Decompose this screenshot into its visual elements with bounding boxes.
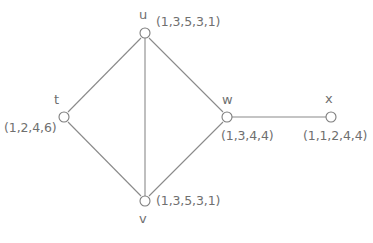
node-label-v: v [139,212,147,225]
node-tuple-w: (1,3,4,4) [221,130,274,143]
node-tuple-x: (1,1,2,4,4) [303,130,367,143]
node-circle-v[interactable] [140,196,150,206]
node-tuple-v: (1,3,5,3,1) [156,195,220,208]
edge-t-v [68,122,141,196]
edge-t-u [68,38,141,112]
node-label-t: t [54,93,59,106]
node-label-w: w [222,93,233,106]
graph-diagram: t u v w x (1,2,4,6) (1,3,5,3,1) (1,3,5,3… [0,0,373,243]
node-circle-x[interactable] [326,112,336,122]
node-circle-t[interactable] [59,112,69,122]
node-tuple-u: (1,3,5,3,1) [156,16,220,29]
node-label-x: x [325,92,333,105]
edge-v-w [149,122,223,196]
node-circle-w[interactable] [222,112,232,122]
node-circle-u[interactable] [140,28,150,38]
node-label-u: u [139,8,147,21]
edge-u-w [149,38,223,112]
node-tuple-t: (1,2,4,6) [4,122,57,135]
